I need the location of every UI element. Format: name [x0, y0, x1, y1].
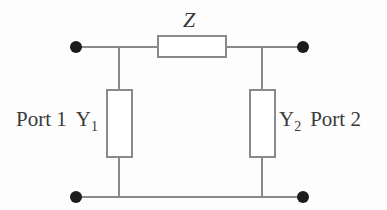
series-impedance-z-box — [158, 36, 226, 57]
port2-label: Port 2 — [310, 107, 361, 131]
y1-symbol: Y — [76, 107, 91, 131]
shunt-admittance-y2-box — [250, 90, 275, 157]
port1-negative-terminal — [70, 191, 82, 203]
port1-label: Port 1 — [16, 107, 67, 131]
y2-symbol: Y — [279, 107, 294, 131]
port1-and-y1-label: Port 1Y1 — [16, 109, 98, 134]
port1-positive-terminal — [70, 41, 82, 53]
shunt-admittance-y1-box — [107, 90, 132, 157]
y1-subscript: 1 — [91, 119, 98, 134]
circuit-diagram-canvas: Z Port 1Y1 Y2Port 2 — [0, 0, 387, 210]
y2-and-port2-label: Y2Port 2 — [279, 109, 361, 134]
port2-positive-terminal — [297, 41, 309, 53]
series-impedance-z-label: Z — [183, 9, 195, 31]
y2-subscript: 2 — [294, 119, 301, 134]
port2-negative-terminal — [297, 191, 309, 203]
